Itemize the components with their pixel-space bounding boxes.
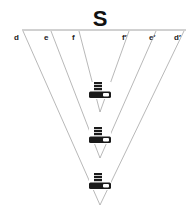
- label-f-prime: f′: [122, 33, 127, 42]
- ray-f-prime: [100, 31, 129, 112]
- projection-diagram: S d e f f′ e′ d′: [0, 0, 194, 206]
- disk-stack-icon: [89, 127, 111, 144]
- disk-stack-icon: [89, 82, 111, 99]
- disk-stack-icon: [89, 173, 111, 190]
- label-d-prime: d′: [174, 33, 181, 42]
- label-d: d: [14, 33, 19, 42]
- ray-d-prime: [100, 31, 184, 205]
- label-f: f: [72, 33, 75, 42]
- ray-f: [79, 31, 100, 112]
- label-e: e: [44, 33, 49, 42]
- diagram-title: S: [93, 6, 108, 31]
- ray-d: [23, 31, 100, 205]
